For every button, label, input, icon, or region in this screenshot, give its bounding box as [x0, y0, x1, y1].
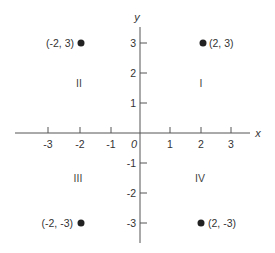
quadrant-IV-label: IV — [195, 172, 205, 184]
quadrant-II-label: II — [76, 77, 82, 89]
quadrant-III-label: III — [74, 172, 83, 184]
x-tick-label: 3 — [228, 138, 234, 150]
y-tick-label: -2 — [127, 187, 136, 199]
y-tick-label: 1 — [130, 97, 136, 109]
point-label: (2, -3) — [208, 217, 236, 229]
origin-label: 0 — [131, 138, 138, 150]
y-tick-label: 2 — [130, 67, 136, 79]
point-marker — [78, 220, 85, 227]
y-axis-label: y — [133, 11, 141, 23]
x-tick-label: -1 — [106, 138, 115, 150]
coordinate-plane: y x 0 -3 -2 -1 1 2 3 3 2 1 -1 -2 -3 I II… — [0, 0, 275, 253]
x-tick-label: 1 — [167, 138, 173, 150]
point-label: (-2, -3) — [42, 217, 74, 229]
y-tick-label: -1 — [127, 157, 136, 169]
y-tick-label: 3 — [130, 37, 136, 49]
y-tick-label: -3 — [127, 217, 136, 229]
point-label: (-2, 3) — [46, 37, 74, 49]
x-tick-label: -3 — [43, 138, 52, 150]
x-tick-label: -2 — [75, 138, 84, 150]
point-marker — [198, 220, 205, 227]
point-label: (2, 3) — [209, 37, 234, 49]
x-axis-label: x — [254, 127, 261, 139]
point-marker — [200, 40, 207, 47]
quadrant-I-label: I — [200, 77, 203, 89]
point-marker — [78, 40, 85, 47]
x-tick-label: 2 — [198, 138, 204, 150]
